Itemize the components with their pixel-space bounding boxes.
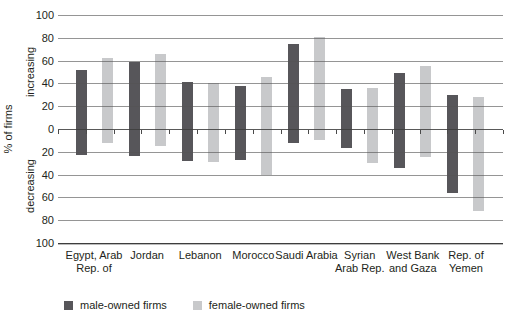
- y-tick-label: 100: [20, 237, 54, 249]
- y-tick-label: 80: [20, 214, 54, 226]
- gridline-60-dec: [58, 197, 503, 198]
- y-tick-label: 20: [20, 100, 54, 112]
- male-owned-firms-label: male-owned firms: [80, 299, 167, 311]
- zero-line-tick: [447, 130, 448, 134]
- female-bar-morocco: [261, 77, 272, 175]
- y-tick-label: 20: [20, 146, 54, 158]
- male-bar-syrian-arab-rep: [341, 89, 352, 148]
- female-bar-egypt-arab-rep-of: [102, 58, 113, 142]
- female-bar-jordan: [155, 54, 166, 146]
- female-bar-west-bank-and-gaza: [420, 66, 431, 157]
- zero-line-tick: [114, 130, 115, 134]
- female-bar-rep-of-yemen: [473, 97, 484, 211]
- male-bar-morocco: [235, 86, 246, 160]
- male-bar-jordan: [129, 62, 140, 157]
- chart-figure: % of firms increasing decreasing 1008060…: [0, 0, 505, 321]
- zero-line-tick: [336, 130, 337, 134]
- male-bar-rep-of-yemen: [447, 95, 458, 193]
- zero-line-tick: [197, 130, 198, 134]
- y-tick-label: 0: [20, 123, 54, 135]
- y-tick-label: 40: [20, 77, 54, 89]
- legend: male-owned firms female-owned firms: [64, 299, 305, 311]
- zero-line-tick: [392, 130, 393, 134]
- zero-line-tick: [503, 130, 504, 134]
- zero-line-tick: [253, 130, 254, 134]
- zero-line-tick: [308, 130, 309, 134]
- female-owned-firms-swatch: [193, 301, 202, 310]
- x-category-label: Rep. ofYemen: [427, 249, 505, 275]
- female-bar-lebanon: [208, 83, 219, 162]
- gridline-40-dec: [58, 175, 503, 176]
- male-owned-firms-swatch: [64, 301, 73, 310]
- zero-line-tick: [364, 130, 365, 134]
- legend-item-female-owned-firms: female-owned firms: [193, 299, 305, 311]
- zero-line-tick: [225, 130, 226, 134]
- female-bar-saudi-arabia: [314, 37, 325, 141]
- y-axis-title-text: % of firms: [2, 105, 14, 154]
- gridline-20-inc: [58, 106, 503, 107]
- decreasing-label-text: decreasing: [24, 159, 36, 213]
- legend-item-male-owned-firms: male-owned firms: [64, 299, 167, 311]
- plot-area: [58, 15, 503, 243]
- zero-line-tick: [141, 130, 142, 134]
- y-tick-label: 80: [20, 32, 54, 44]
- y-axis-title: % of firms: [0, 15, 16, 243]
- zero-line-tick: [281, 130, 282, 134]
- zero-line-tick: [169, 130, 170, 134]
- y-tick-label: 60: [20, 55, 54, 67]
- gridline-80-inc: [58, 38, 503, 39]
- zero-line-tick: [86, 130, 87, 134]
- gridline-60-inc: [58, 61, 503, 62]
- y-tick-label: 100: [20, 9, 54, 21]
- gridline-100-dec: [58, 243, 503, 244]
- gridline-20-dec: [58, 152, 503, 153]
- y-tick-label: 40: [20, 169, 54, 181]
- zero-line-tick: [475, 130, 476, 134]
- gridline-80-dec: [58, 220, 503, 221]
- male-bar-saudi-arabia: [288, 44, 299, 143]
- zero-line-tick: [58, 130, 59, 134]
- male-bar-lebanon: [182, 82, 193, 161]
- male-bar-west-bank-and-gaza: [394, 73, 405, 168]
- zero-line-tick: [420, 130, 421, 134]
- gridline-40-inc: [58, 83, 503, 84]
- gridline-100-inc: [58, 15, 503, 16]
- y-tick-label: 60: [20, 191, 54, 203]
- female-owned-firms-label: female-owned firms: [209, 299, 305, 311]
